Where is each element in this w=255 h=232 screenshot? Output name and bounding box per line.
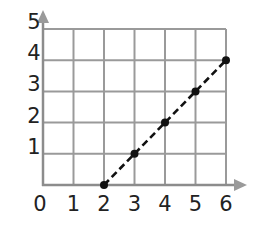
- y-tick-labels: 12345: [27, 10, 40, 159]
- x-tick-label: 1: [67, 192, 80, 216]
- data-point: [222, 56, 230, 64]
- x-tick-label: 5: [189, 192, 202, 216]
- x-tick-label: 3: [128, 192, 141, 216]
- y-tick-label: 5: [27, 10, 40, 34]
- grid: [43, 29, 226, 185]
- y-tick-label: 1: [27, 135, 40, 159]
- y-tick-label: 2: [27, 104, 40, 128]
- chart: 0123456 12345: [0, 0, 255, 232]
- x-tick-label: 2: [97, 192, 110, 216]
- x-tick-labels: 0123456: [33, 192, 232, 216]
- y-tick-label: 4: [27, 41, 40, 65]
- y-tick-label: 3: [27, 72, 40, 96]
- data-point: [100, 181, 108, 189]
- axes: [37, 10, 247, 191]
- x-tick-label: 0: [33, 192, 46, 216]
- data-point: [161, 119, 169, 127]
- data-point: [192, 87, 200, 95]
- x-tick-label: 6: [219, 192, 232, 216]
- x-tick-label: 4: [158, 192, 171, 216]
- data-point: [131, 150, 139, 158]
- x-axis-arrow-icon: [234, 179, 247, 191]
